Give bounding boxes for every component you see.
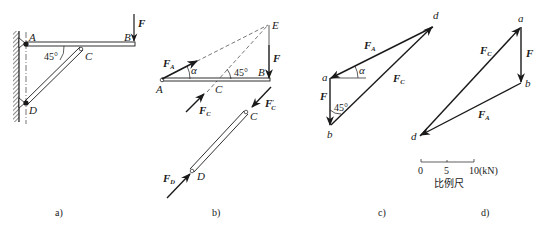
strut-cd-edge2 — [194, 114, 248, 172]
force-fc-arrow — [420, 28, 520, 136]
angle-arc — [60, 46, 64, 60]
alpha-arc — [187, 66, 190, 79]
scale-label-0: 0 — [418, 165, 423, 176]
panel-d: a b d F FC FA 0 5 10(kN) 比例尺 d) — [411, 12, 534, 219]
point-a-label: a — [518, 12, 524, 24]
point-d-label: d — [411, 130, 417, 142]
point-a-label: A — [28, 31, 36, 43]
beam-ab — [26, 42, 135, 46]
force-f-label: F — [272, 52, 281, 64]
alpha-arc — [355, 66, 358, 78]
scale-bar-title: 比例尺 — [434, 177, 464, 189]
force-f-label: F — [137, 17, 146, 29]
point-b-label: b — [327, 128, 333, 140]
force-f-label: F — [319, 90, 328, 102]
point-c-label: C — [215, 83, 223, 95]
scale-label-5: 5 — [444, 165, 449, 176]
panel-a: 45° F A B C D a) — [13, 14, 146, 219]
force-f-label: F — [525, 47, 534, 59]
point-b-label: B — [124, 31, 131, 43]
panel-b: FA α 45° F A B C E FC F′C C D FD b) — [155, 19, 281, 219]
caption-a: a) — [55, 207, 63, 219]
force-fd-label: FD — [162, 172, 175, 185]
force-fa-label: FA — [162, 57, 175, 70]
force-fa-arrow — [331, 27, 433, 78]
force-fc-label: FC — [392, 72, 405, 85]
force-fc-label: FC — [479, 44, 492, 57]
point-c-label: C — [85, 50, 93, 62]
force-fa-label: FA — [363, 39, 376, 52]
strut-cd-edge1 — [190, 111, 244, 169]
pin-d — [23, 100, 28, 105]
angle45-label: 45° — [334, 102, 348, 113]
pin-d — [190, 169, 194, 173]
wall-hatch — [13, 31, 19, 122]
caption-d: d) — [481, 207, 489, 219]
scale-bar: 0 5 10(kN) 比例尺 — [418, 159, 498, 189]
alpha-label: α — [191, 64, 197, 76]
force-fc-label: FC — [198, 104, 211, 117]
pin-a — [23, 41, 28, 46]
caption-b: b) — [212, 207, 220, 219]
point-d-label: D — [196, 170, 205, 182]
statics-figure: 45° F A B C D a) FA α 45° F A B C E — [0, 0, 543, 235]
panel-c: α 45° a b d F FA FC c) — [319, 9, 439, 219]
pin-c — [244, 110, 248, 114]
pin-c — [79, 47, 83, 51]
angle-label: 45° — [44, 51, 58, 62]
point-a-label: a — [322, 71, 328, 83]
force-fa-arrow — [421, 83, 521, 135]
point-b-label: b — [525, 77, 531, 89]
angle45-arc — [227, 69, 231, 79]
point-b-label: B — [258, 66, 265, 78]
point-a-label: A — [155, 83, 163, 95]
alpha-label: α — [359, 64, 365, 76]
force-fc-prime-label: F′C — [264, 97, 276, 111]
scale-label-10: 10(kN) — [469, 165, 498, 177]
point-d-label: D — [28, 104, 37, 116]
beam-ab — [162, 78, 270, 81]
line-ce-dashed — [207, 25, 268, 92]
point-c2-label: C — [250, 110, 258, 122]
angle45-label: 45° — [234, 67, 248, 78]
point-d-label: d — [433, 9, 439, 21]
point-e-label: E — [271, 19, 279, 31]
caption-c: c) — [378, 207, 386, 219]
force-fa-label: FA — [477, 108, 490, 121]
